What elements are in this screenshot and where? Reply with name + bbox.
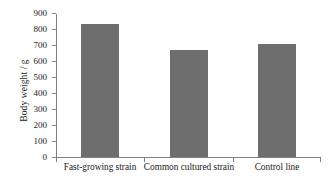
y-axis-title: Body weight / g bbox=[16, 0, 32, 181]
x-axis-line bbox=[56, 157, 321, 158]
y-tick-600: 600 bbox=[52, 61, 56, 62]
y-tick-200: 200 bbox=[52, 125, 56, 126]
y-axis-line bbox=[56, 14, 57, 158]
x-tick-0 bbox=[56, 158, 57, 162]
plot-area: 0 100 200 300 400 500 600 700 800 900 bbox=[56, 14, 321, 158]
bar-control-line bbox=[258, 44, 296, 157]
x-category-label-common-cultured-strain: Common cultured strain bbox=[144, 163, 234, 172]
y-tick-label-700: 700 bbox=[34, 41, 48, 50]
y-tick-label-100: 100 bbox=[34, 137, 48, 146]
x-category-label-control-line: Control line bbox=[255, 163, 300, 172]
y-tick-label-800: 800 bbox=[34, 25, 48, 34]
y-tick-100: 100 bbox=[52, 141, 56, 142]
y-tick-label-400: 400 bbox=[34, 89, 48, 98]
y-tick-900: 900 bbox=[52, 13, 56, 14]
y-tick-500: 500 bbox=[52, 77, 56, 78]
y-tick-300: 300 bbox=[52, 109, 56, 110]
y-tick-400: 400 bbox=[52, 93, 56, 94]
bar-chart-figure: Body weight / g 0 100 200 300 400 500 60… bbox=[0, 0, 331, 181]
y-tick-label-0: 0 bbox=[43, 153, 48, 162]
bar-common-cultured-strain bbox=[170, 50, 208, 157]
y-tick-800: 800 bbox=[52, 29, 56, 30]
y-tick-label-600: 600 bbox=[34, 57, 48, 66]
y-tick-700: 700 bbox=[52, 45, 56, 46]
x-tick-3 bbox=[320, 158, 321, 162]
y-tick-label-300: 300 bbox=[34, 105, 48, 114]
bar-fast-growing-strain bbox=[81, 24, 119, 158]
y-tick-label-200: 200 bbox=[34, 121, 48, 130]
y-tick-label-500: 500 bbox=[34, 73, 48, 82]
x-category-label-fast-growing-strain: Fast-growing strain bbox=[64, 163, 137, 172]
y-tick-label-900: 900 bbox=[34, 9, 48, 18]
